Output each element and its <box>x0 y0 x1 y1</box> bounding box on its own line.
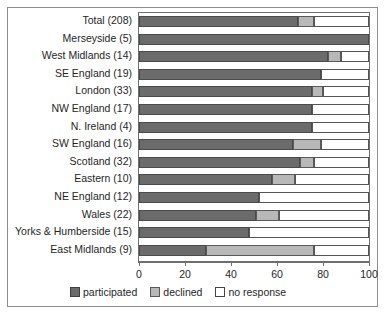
y-axis-label: NE England (12) <box>54 191 132 202</box>
bar-segment-participated <box>139 139 293 150</box>
x-axis-tick-label: 40 <box>225 268 237 280</box>
bar-row <box>139 245 369 256</box>
legend-entry-participated[interactable]: participated <box>70 286 137 298</box>
bar-segment-no-response <box>323 86 369 97</box>
bar-row <box>139 210 369 221</box>
bar-segment-participated <box>139 104 312 115</box>
bar-segment-no-response <box>312 122 370 133</box>
bar-segment-participated <box>139 34 369 45</box>
legend-label: declined <box>163 286 202 298</box>
x-axis-tick-label: 0 <box>136 268 142 280</box>
bar-segment-declined <box>300 157 314 168</box>
bar-segment-participated <box>139 51 328 62</box>
bar-segment-declined <box>328 51 342 62</box>
bar-segment-declined <box>312 86 324 97</box>
chart-legend: participateddeclinedno response <box>70 285 295 299</box>
bar-row <box>139 122 369 133</box>
x-axis-tick <box>139 262 140 266</box>
y-axis-label: Scotland (32) <box>70 156 132 167</box>
legend-swatch-participated-icon <box>70 287 80 297</box>
bar-segment-participated <box>139 157 300 168</box>
y-axis-label: NW England (17) <box>51 103 132 114</box>
y-axis-label: Wales (22) <box>82 209 132 220</box>
chart-figure: Total (208)Merseyside (5)West Midlands (… <box>0 0 387 316</box>
bar-row <box>139 104 369 115</box>
bar-row <box>139 86 369 97</box>
y-axis-label: Merseyside (5) <box>63 33 132 44</box>
x-axis: 020406080100 <box>138 262 370 284</box>
legend-swatch-noresponse-icon <box>215 287 225 297</box>
bar-segment-no-response <box>321 69 369 80</box>
bar-row <box>139 192 369 203</box>
bar-segment-no-response <box>321 139 369 150</box>
y-axis-label: Total (208) <box>82 15 132 26</box>
bar-row <box>139 174 369 185</box>
y-axis-labels: Total (208)Merseyside (5)West Midlands (… <box>10 12 136 262</box>
x-axis-tick <box>369 262 370 266</box>
x-axis-tick-label: 80 <box>317 268 329 280</box>
x-axis-line <box>138 262 370 263</box>
bar-segment-participated <box>139 210 256 221</box>
bar-segment-participated <box>139 192 259 203</box>
y-axis-label: SE England (19) <box>55 68 132 79</box>
bar-segment-no-response <box>314 245 369 256</box>
bar-segment-no-response <box>279 210 369 221</box>
bar-segment-no-response <box>312 104 370 115</box>
legend-entry-declined[interactable]: declined <box>150 286 202 298</box>
bar-row <box>139 69 369 80</box>
y-axis-label: SW England (16) <box>52 138 132 149</box>
bar-segment-declined <box>206 245 314 256</box>
bar-segment-no-response <box>314 157 369 168</box>
bar-segment-no-response <box>314 16 369 27</box>
bar-segment-participated <box>139 227 249 238</box>
legend-label: no response <box>228 286 286 298</box>
bars-layer <box>139 13 369 261</box>
y-axis-label: East Midlands (9) <box>50 244 132 255</box>
x-axis-tick <box>231 262 232 266</box>
y-axis-label: West Midlands (14) <box>42 50 132 61</box>
bar-segment-no-response <box>341 51 369 62</box>
bar-segment-no-response <box>249 227 369 238</box>
bar-segment-no-response <box>295 174 369 185</box>
legend-entry-noresponse[interactable]: no response <box>215 286 286 298</box>
bar-row <box>139 51 369 62</box>
bar-segment-participated <box>139 16 298 27</box>
plot-area <box>138 12 370 262</box>
bar-row <box>139 139 369 150</box>
bar-row <box>139 157 369 168</box>
bar-segment-participated <box>139 245 206 256</box>
bar-row <box>139 227 369 238</box>
bar-row <box>139 16 369 27</box>
x-axis-tick-label: 20 <box>179 268 191 280</box>
x-axis-tick <box>323 262 324 266</box>
x-axis-tick-label: 60 <box>271 268 283 280</box>
bar-row <box>139 34 369 45</box>
bar-segment-participated <box>139 122 312 133</box>
y-axis-label: London (33) <box>75 85 132 96</box>
bar-segment-participated <box>139 174 272 185</box>
x-axis-tick-label: 100 <box>360 268 378 280</box>
bar-segment-participated <box>139 86 312 97</box>
bar-segment-declined <box>256 210 279 221</box>
bar-segment-declined <box>293 139 321 150</box>
bar-segment-no-response <box>259 192 369 203</box>
legend-swatch-declined-icon <box>150 287 160 297</box>
bar-segment-declined <box>272 174 295 185</box>
x-axis-tick <box>185 262 186 266</box>
y-axis-label: Yorks & Humberside (15) <box>15 226 132 237</box>
y-axis-label: N. Ireland (4) <box>71 121 132 132</box>
bar-segment-participated <box>139 69 321 80</box>
x-axis-tick <box>277 262 278 266</box>
legend-label: participated <box>83 286 137 298</box>
bar-segment-declined <box>298 16 314 27</box>
y-axis-label: Eastern (10) <box>74 173 132 184</box>
